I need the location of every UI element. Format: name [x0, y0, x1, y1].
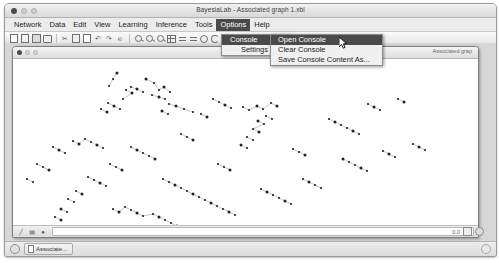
graph-node[interactable]: [260, 188, 262, 190]
zoom-in-icon[interactable]: [133, 34, 143, 44]
graph-node[interactable]: [64, 152, 66, 154]
graph-node[interactable]: [112, 208, 114, 210]
graph-node[interactable]: [212, 98, 214, 100]
graph-node[interactable]: [158, 96, 161, 99]
graph-node[interactable]: [73, 201, 75, 203]
graph-node[interactable]: [130, 209, 132, 211]
graph-node[interactable]: [102, 147, 104, 149]
menu-item-data[interactable]: Data: [46, 19, 70, 31]
graph-node[interactable]: [271, 118, 273, 120]
graph-node[interactable]: [60, 219, 63, 222]
graph-node[interactable]: [174, 184, 177, 187]
graph-node[interactable]: [78, 143, 81, 146]
graph-node[interactable]: [42, 166, 44, 168]
graph-node[interactable]: [168, 103, 170, 105]
graph-node[interactable]: [290, 203, 292, 205]
graph-node[interactable]: [217, 163, 219, 165]
graph-node[interactable]: [175, 105, 178, 108]
submenu-clear-console[interactable]: Clear Console: [271, 45, 382, 55]
graph-node[interactable]: [152, 213, 154, 215]
graph-node[interactable]: [60, 208, 63, 211]
graph-node[interactable]: [32, 181, 34, 183]
graph-node[interactable]: [216, 205, 218, 207]
graph-node[interactable]: [142, 215, 144, 217]
graph-node[interactable]: [113, 105, 116, 108]
graph-node[interactable]: [320, 187, 322, 189]
graph-node[interactable]: [158, 216, 161, 219]
graph-node[interactable]: [136, 149, 139, 152]
graph-node[interactable]: [75, 190, 77, 192]
graph-node[interactable]: [308, 181, 311, 184]
page-fit-icon[interactable]: [463, 227, 472, 236]
graph-node[interactable]: [58, 149, 61, 152]
graph-node[interactable]: [180, 187, 182, 189]
graph-node[interactable]: [145, 78, 148, 81]
graph-node[interactable]: [168, 181, 170, 183]
graph-node[interactable]: [234, 214, 236, 216]
graph-node[interactable]: [180, 133, 182, 135]
graph-node[interactable]: [122, 98, 124, 100]
menu-item-edit[interactable]: Edit: [69, 19, 90, 31]
graph-node[interactable]: [314, 184, 316, 186]
graph-node[interactable]: [84, 138, 86, 140]
graph-node[interactable]: [96, 144, 99, 147]
document-maximize-button[interactable]: [33, 50, 38, 55]
graph-node[interactable]: [163, 86, 166, 89]
graph-node[interactable]: [54, 216, 56, 218]
graph-node[interactable]: [256, 105, 259, 108]
graph-node[interactable]: [170, 222, 172, 224]
graph-node[interactable]: [167, 113, 169, 115]
paste-icon[interactable]: [82, 34, 92, 44]
submenu-open-console[interactable]: Open Console: [271, 35, 382, 45]
graph-node[interactable]: [352, 130, 355, 133]
graph-node[interactable]: [302, 178, 304, 180]
graph-node[interactable]: [206, 116, 209, 119]
taskbar-tab-associated-graph[interactable]: Associate...: [24, 243, 73, 255]
graph-node[interactable]: [358, 133, 360, 135]
edge-tool-icon[interactable]: ╱: [17, 228, 25, 236]
graph-node[interactable]: [105, 185, 107, 187]
menu-item-inference[interactable]: Inference: [152, 19, 191, 31]
graph-node[interactable]: [118, 211, 121, 214]
graph-node[interactable]: [263, 123, 265, 125]
menu-item-network[interactable]: Network: [10, 19, 46, 31]
menu-item-view[interactable]: View: [90, 19, 114, 31]
graph-node[interactable]: [87, 176, 89, 178]
graph-node[interactable]: [252, 128, 254, 130]
graph-node[interactable]: [334, 121, 337, 124]
graph-node[interactable]: [161, 110, 164, 113]
graph-node[interactable]: [397, 98, 399, 100]
zoom-out-icon[interactable]: [144, 34, 154, 44]
grid-layout-icon[interactable]: [166, 34, 176, 44]
node-marker-icon[interactable]: ●: [39, 228, 47, 236]
graph-node[interactable]: [388, 153, 391, 156]
graph-node[interactable]: [298, 151, 300, 153]
graph-node[interactable]: [218, 101, 220, 103]
graph-node[interactable]: [265, 115, 267, 117]
graph-node[interactable]: [81, 193, 84, 196]
graph-node[interactable]: [240, 144, 243, 147]
graph-node[interactable]: [222, 208, 224, 210]
graph-node[interactable]: [258, 131, 261, 134]
graph-node[interactable]: [229, 169, 232, 172]
graph-node[interactable]: [328, 118, 330, 120]
graph-node[interactable]: [100, 108, 102, 110]
graph-node[interactable]: [257, 120, 260, 123]
graph-node[interactable]: [248, 109, 250, 111]
graph-node[interactable]: [183, 108, 185, 110]
find-icon[interactable]: ℮: [115, 34, 125, 44]
menu-item-learning[interactable]: Learning: [114, 19, 151, 31]
copy-icon[interactable]: [71, 34, 81, 44]
graph-node[interactable]: [382, 150, 384, 152]
menu-item-options[interactable]: Options: [216, 19, 250, 31]
graph-node[interactable]: [186, 190, 188, 192]
graph-node[interactable]: [115, 166, 117, 168]
graph-node[interactable]: [164, 98, 166, 100]
graph-node[interactable]: [246, 136, 248, 138]
print-icon[interactable]: [42, 34, 52, 44]
graph-node[interactable]: [99, 182, 102, 185]
graph-node[interactable]: [66, 211, 68, 213]
graph-node[interactable]: [116, 72, 119, 75]
graph-node[interactable]: [210, 202, 213, 205]
graph-node[interactable]: [162, 178, 164, 180]
